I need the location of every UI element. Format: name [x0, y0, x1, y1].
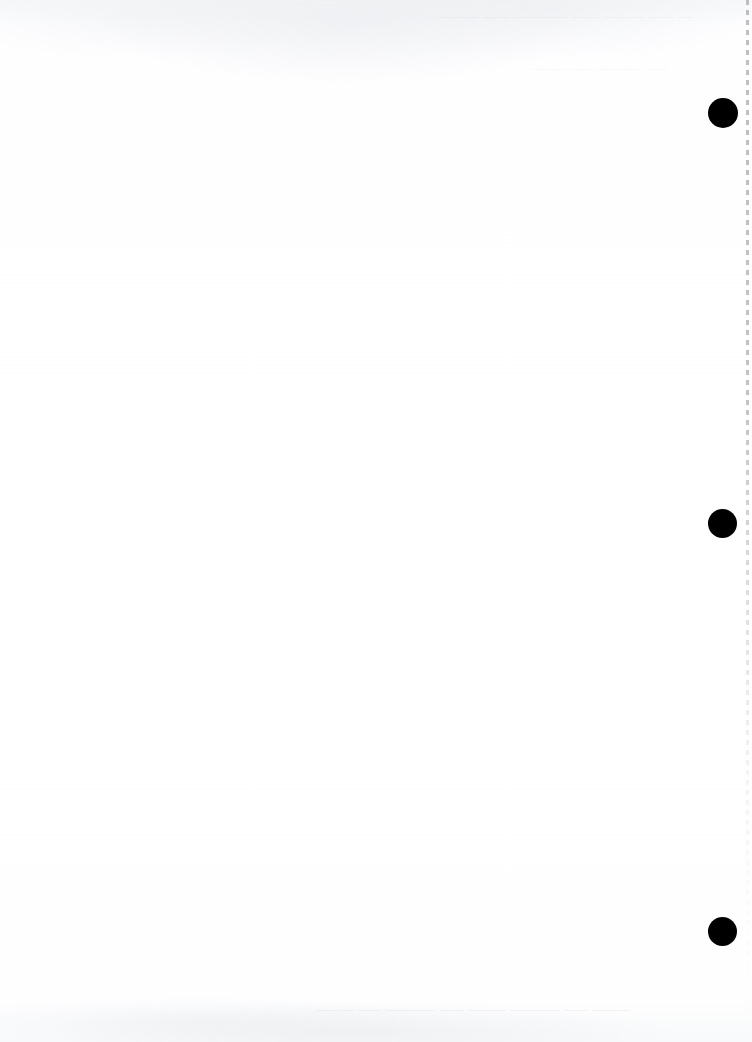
registration-mark-bottom: [708, 917, 737, 946]
showthrough-ghost-text-top-secondary: —— ———— —— ———: [408, 60, 668, 77]
registration-mark-top: [708, 98, 738, 128]
showthrough-ghost-text-top: — —— ——— —— ———— —— ———: [392, 6, 692, 25]
showthrough-ghost-text-bottom: ——— —— ———— ——— —— ———— —— ———: [160, 1000, 630, 1018]
page-edge-perforation: [746, 0, 749, 1042]
scanned-page: — —— ——— —— ———— —— ——— —— ———— —— ——— —…: [0, 0, 752, 1042]
registration-mark-middle: [708, 509, 737, 538]
